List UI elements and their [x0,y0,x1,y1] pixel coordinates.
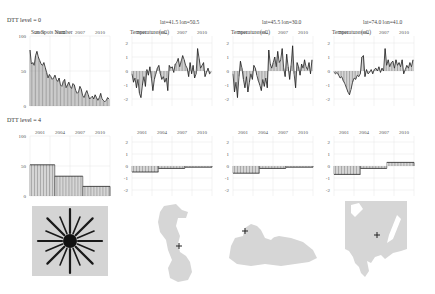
svg-text:2007: 2007 [278,30,289,35]
svg-text:1: 1 [126,55,129,60]
svg-text:2001: 2001 [339,30,350,35]
svg-text:2007: 2007 [278,130,289,135]
svg-text:2: 2 [328,140,331,145]
svg-text:2001: 2001 [35,130,46,135]
svg-text:1: 1 [227,55,230,60]
row-label-level-4: DTT level = 4 [7,117,41,123]
svg-text:2010: 2010 [399,30,410,35]
chart-1-1: 210-1-22001200420072010 [118,128,218,202]
svg-text:2007: 2007 [75,130,86,135]
svg-text:0: 0 [328,164,331,169]
svg-text:-2: -2 [326,188,331,193]
svg-text:2004: 2004 [359,130,370,135]
chart-0-1: 210-1-22001200420072010 [118,28,218,112]
svg-text:2010: 2010 [197,30,208,35]
svg-text:2007: 2007 [177,130,188,135]
white-sea-map [345,201,407,283]
svg-text:0: 0 [126,164,129,169]
svg-text:-1: -1 [225,83,230,88]
chart-0-2: 210-1-22001200420072010 [219,28,319,112]
svg-text:2010: 2010 [95,130,106,135]
svg-text:0: 0 [227,164,230,169]
chart-1-2: 210-1-22001200420072010 [219,128,319,202]
svg-text:2001: 2001 [137,130,148,135]
svg-text:1: 1 [126,152,129,157]
svg-text:2004: 2004 [359,30,370,35]
svg-text:-2: -2 [225,97,230,102]
svg-text:2007: 2007 [379,130,390,135]
svg-text:2007: 2007 [177,30,188,35]
svg-text:2: 2 [126,140,129,145]
svg-text:-1: -1 [326,176,331,181]
svg-text:2004: 2004 [55,30,66,35]
column-header-caspian: lat=41.5 lon=50.5 [160,19,199,25]
svg-text:2: 2 [227,140,230,145]
svg-text:100: 100 [19,134,27,139]
svg-text:2010: 2010 [95,30,106,35]
svg-text:2004: 2004 [55,130,66,135]
svg-text:-2: -2 [124,97,129,102]
svg-text:0: 0 [24,104,27,109]
svg-text:2004: 2004 [157,30,168,35]
svg-text:2004: 2004 [157,130,168,135]
svg-text:2001: 2001 [339,130,350,135]
svg-text:-2: -2 [124,188,129,193]
svg-text:2001: 2001 [238,30,249,35]
chart-0-0: 1005002001200420072010 [16,28,116,112]
svg-text:-1: -1 [124,176,129,181]
svg-text:-2: -2 [225,188,230,193]
svg-text:100: 100 [19,34,27,39]
svg-text:0: 0 [328,69,331,74]
svg-text:2010: 2010 [298,30,309,35]
svg-text:2010: 2010 [298,130,309,135]
chart-1-3: 210-1-22001200420072010 [320,128,420,202]
svg-text:-1: -1 [124,83,129,88]
svg-text:0: 0 [227,69,230,74]
chart-1-0: 1005002001200420072010 [16,128,116,202]
svg-text:50: 50 [21,164,27,169]
sunspot-icon [32,206,108,276]
svg-text:2004: 2004 [258,30,269,35]
svg-text:2001: 2001 [238,130,249,135]
svg-text:-1: -1 [225,176,230,181]
svg-text:50: 50 [21,69,27,74]
column-header-black-sea: lat=45.5 lon=30.0 [262,19,301,25]
caspian-sea-map [150,204,200,284]
svg-text:2001: 2001 [137,30,148,35]
svg-text:2010: 2010 [399,130,410,135]
svg-text:1: 1 [227,152,230,157]
column-header-white-sea: lat=74.0 lon=41.0 [363,19,402,25]
svg-text:2: 2 [227,41,230,46]
svg-text:2001: 2001 [35,30,46,35]
svg-text:2010: 2010 [197,130,208,135]
svg-text:-1: -1 [326,83,331,88]
svg-text:0: 0 [126,69,129,74]
svg-text:2004: 2004 [258,130,269,135]
svg-text:-2: -2 [326,97,331,102]
chart-0-3: 210-1-22001200420072010 [320,28,420,112]
svg-text:2007: 2007 [379,30,390,35]
row-label-level-0: DTT level = 0 [7,17,41,23]
svg-text:1: 1 [328,55,331,60]
black-sea-map [225,218,320,273]
svg-text:1: 1 [328,152,331,157]
svg-text:2: 2 [328,41,331,46]
svg-text:0: 0 [24,194,27,199]
svg-text:2007: 2007 [75,30,86,35]
svg-text:2: 2 [126,41,129,46]
